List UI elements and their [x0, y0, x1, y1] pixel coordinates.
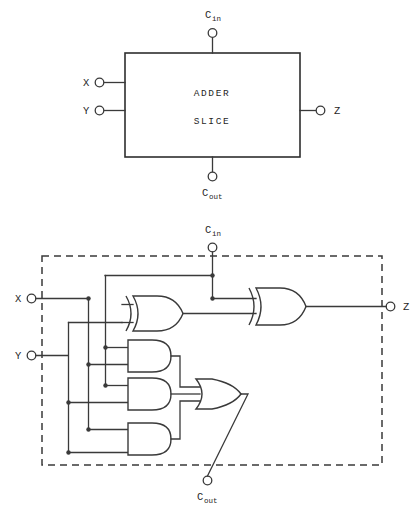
junction-cin-rail — [210, 273, 214, 277]
gate-diagram-group: C in X Y Z C out — [15, 224, 410, 505]
block-cin-label: C — [205, 9, 212, 21]
or1-gate — [196, 379, 248, 476]
block-cout-label: C — [202, 187, 209, 199]
junction-x-to-and1 — [86, 362, 90, 366]
xor1-gate — [122, 296, 256, 331]
gate-z-terminal[interactable] — [386, 302, 395, 311]
junction-y-to-and3 — [66, 450, 70, 454]
block-cout-label-sub: out — [209, 193, 223, 201]
block-label-slice: SLICE — [194, 116, 231, 127]
gate-z-label: Z — [403, 301, 410, 313]
junction-cin-to-xor2 — [210, 296, 214, 300]
junction-cin-to-and2 — [103, 383, 107, 387]
adder-slice-box — [125, 53, 300, 157]
gate-cin-label-sub: in — [212, 230, 221, 238]
junction-y-to-and2 — [66, 400, 70, 404]
gate-cin-label: C — [205, 224, 212, 236]
block-cout-terminal[interactable] — [208, 172, 217, 181]
block-symbol-group: ADDER SLICE C in X Y Z C out — [83, 9, 341, 201]
junction-x-bus-top — [86, 296, 90, 300]
gate-x-label: X — [15, 293, 22, 305]
and3-body — [128, 423, 171, 455]
gate-cout-terminal[interactable] — [203, 476, 212, 485]
and1-output-wire — [171, 356, 200, 387]
xor2-body — [256, 288, 306, 325]
xor1-body — [133, 296, 183, 331]
block-z-label: Z — [334, 105, 341, 117]
adder-slice-figure: ADDER SLICE C in X Y Z C out C in — [0, 0, 419, 516]
gate-y-terminal[interactable] — [27, 351, 36, 360]
gate-x-terminal[interactable] — [27, 294, 36, 303]
block-x-label: X — [83, 77, 90, 89]
xor2-gate — [213, 288, 386, 325]
block-y-label: Y — [83, 105, 90, 117]
block-z-terminal[interactable] — [316, 106, 325, 115]
xor2-extra-arc — [249, 288, 254, 325]
junction-cin-to-and1 — [103, 345, 107, 349]
gate-cout-label: C — [197, 491, 204, 503]
gate-cin-terminal[interactable] — [208, 243, 217, 252]
block-x-terminal[interactable] — [95, 78, 104, 87]
block-label-adder: ADDER — [194, 88, 231, 99]
block-y-terminal[interactable] — [95, 106, 104, 115]
and1-body — [128, 340, 171, 372]
xor1-extra-arc — [126, 296, 131, 331]
gate-y-label: Y — [15, 350, 22, 362]
and3-output-wire — [171, 401, 200, 439]
gate-cout-label-sub: out — [204, 497, 218, 505]
or1-body — [196, 379, 241, 409]
block-cin-terminal[interactable] — [208, 29, 217, 38]
and2-body — [128, 378, 171, 410]
junction-x-to-and3 — [86, 427, 90, 431]
block-cin-label-sub: in — [212, 15, 221, 23]
